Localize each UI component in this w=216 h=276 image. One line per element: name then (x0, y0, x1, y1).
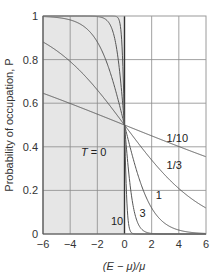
curve-label: 1/3 (167, 159, 182, 171)
curve-label: 10 (111, 215, 123, 227)
curve-label: 1 (156, 189, 162, 201)
x-tick-label: −2 (91, 238, 104, 250)
y-tick-label: 0.2 (23, 184, 38, 196)
x-tick-label: 6 (203, 238, 209, 250)
y-tick-label: 0 (32, 228, 38, 240)
t0-label: T = 0 (81, 146, 106, 158)
curve-label: 1/10 (167, 132, 188, 144)
y-tick-label: 1 (32, 10, 38, 22)
shaded-region-t0 (43, 16, 125, 234)
y-axis-label: Probability of occupation, P (3, 58, 15, 191)
y-tick-label: 0.8 (23, 54, 38, 66)
x-tick-label: 0 (121, 238, 127, 250)
x-tick-label: −6 (37, 238, 50, 250)
x-tick-label: 2 (149, 238, 155, 250)
fermi-dirac-chart: −6−4−20246 00.20.40.60.81 T = 01/101/313… (0, 0, 216, 276)
x-axis-label: (E − μ)/μ (103, 260, 145, 272)
curve-label: 3 (139, 207, 145, 219)
x-tick-label: 4 (176, 238, 182, 250)
x-tick-label: −4 (64, 238, 77, 250)
y-tick-label: 0.6 (23, 97, 38, 109)
y-tick-label: 0.4 (23, 141, 38, 153)
